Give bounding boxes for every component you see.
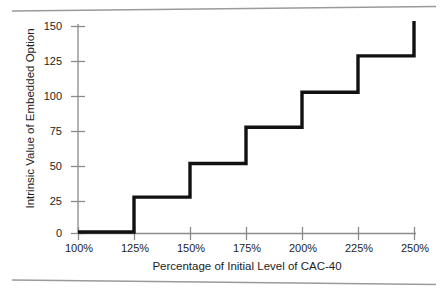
figure-container: 150 125 100 75 50 25 0 100% 125% 150% 17… [0,0,447,295]
x-tick-label-225: 225% [335,243,383,254]
x-tick-label-250: 250% [391,243,439,254]
y-tick-label-0: 0 [28,228,62,239]
x-tick-label-125: 125% [111,243,159,254]
x-tick-label-200: 200% [279,243,327,254]
bottom-horizontal-rule [0,275,447,289]
y-axis-title: Intrinsic Value of Embedded Option [24,19,37,219]
x-tick-label-100: 100% [55,243,103,254]
x-axis-title: Percentage of Initial Level of CAC-40 [78,260,416,273]
x-tick-label-175: 175% [223,243,271,254]
step-function-series [78,21,414,232]
x-tick-label-150: 150% [167,243,215,254]
